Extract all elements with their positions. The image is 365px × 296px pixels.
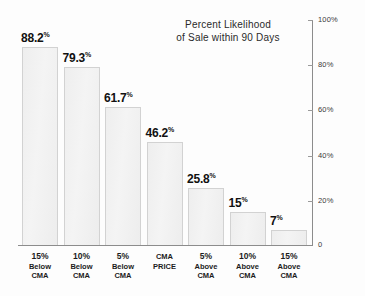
bar-value-label-3: 61.7% bbox=[104, 91, 133, 104]
bar-value-number-5: 25.8 bbox=[187, 172, 210, 186]
bar-value-label-6: 15% bbox=[229, 196, 248, 209]
bar-2 bbox=[64, 67, 100, 246]
category-label-7-line-1: 15% bbox=[262, 252, 316, 262]
bar-1 bbox=[22, 47, 58, 246]
bar-3 bbox=[105, 107, 141, 246]
y-axis-label-20%: 20% bbox=[318, 197, 334, 205]
percent-sign-1: % bbox=[44, 31, 50, 38]
y-axis-label-0: 0 bbox=[318, 241, 322, 249]
bar-7 bbox=[271, 230, 307, 246]
percent-sign-4: % bbox=[168, 126, 174, 133]
percent-sign-7: % bbox=[276, 214, 282, 221]
bar-5 bbox=[188, 188, 224, 246]
bar-value-number-6: 15 bbox=[229, 196, 242, 210]
category-label-7-line-3: CMA bbox=[262, 271, 316, 281]
y-axis-label-100%: 100% bbox=[318, 16, 338, 24]
y-axis-label-40%: 40% bbox=[318, 152, 334, 160]
category-label-3-line-3: CMA bbox=[96, 271, 150, 281]
bar-value-number-1: 88.2 bbox=[21, 31, 44, 45]
bar-value-label-7: 7% bbox=[270, 214, 283, 227]
bar-value-label-1: 88.2% bbox=[21, 31, 50, 44]
bar-6 bbox=[230, 212, 266, 246]
percent-sign-5: % bbox=[210, 172, 216, 179]
bar-4 bbox=[147, 142, 183, 246]
category-label-7: 15%AboveCMA bbox=[262, 252, 316, 281]
bar-value-label-4: 46.2% bbox=[146, 126, 175, 139]
category-label-7-line-2: Above bbox=[262, 262, 316, 272]
bar-value-label-2: 79.3% bbox=[63, 51, 92, 64]
percent-sign-3: % bbox=[127, 91, 133, 98]
y-axis-label-80%: 80% bbox=[318, 61, 334, 69]
percent-sign-6: % bbox=[241, 196, 247, 203]
y-axis-label-60%: 60% bbox=[318, 107, 334, 115]
x-axis-line bbox=[18, 245, 312, 246]
bar-value-label-5: 25.8% bbox=[187, 172, 216, 185]
y-axis-tick-100% bbox=[308, 20, 313, 21]
y-axis-tick-20% bbox=[308, 201, 313, 202]
percent-sign-2: % bbox=[85, 51, 91, 58]
bar-value-number-4: 46.2 bbox=[146, 126, 169, 140]
y-axis-tick-60% bbox=[308, 110, 313, 111]
bar-value-number-2: 79.3 bbox=[63, 51, 86, 65]
bar-chart: Percent Likelihood of Sale within 90 Day… bbox=[0, 0, 365, 296]
y-axis-tick-40% bbox=[308, 156, 313, 157]
y-axis-line bbox=[312, 20, 313, 246]
bar-value-number-3: 61.7 bbox=[104, 91, 127, 105]
y-axis-tick-80% bbox=[308, 65, 313, 66]
